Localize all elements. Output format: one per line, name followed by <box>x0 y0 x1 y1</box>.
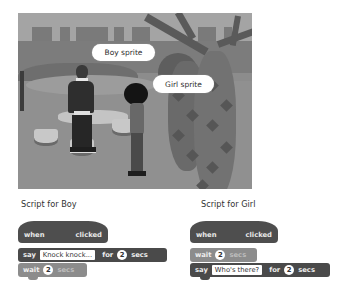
girl-sprite-callout: Girl sprite <box>153 75 214 93</box>
wait-label: wait <box>195 251 211 259</box>
wait-secs-input[interactable]: 2 <box>43 265 53 275</box>
girl-sprite[interactable] <box>124 83 150 179</box>
boy-wait-secs-block[interactable]: wait 2 secs <box>18 263 87 277</box>
for-label: for <box>102 251 113 259</box>
girl-wait-secs-block[interactable]: wait 2 secs <box>190 248 257 262</box>
say-label: say <box>23 251 36 259</box>
boy-sprite-callout: Boy sprite <box>92 44 155 61</box>
for-label: for <box>269 266 280 274</box>
boy-sprite[interactable] <box>66 65 96 153</box>
script-for-girl-label: Script for Girl <box>201 199 255 209</box>
secs-label: secs <box>131 251 148 259</box>
script-for-boy-label: Script for Boy <box>21 199 77 209</box>
secs-label: secs <box>229 251 246 259</box>
when-label: when <box>196 231 217 239</box>
clicked-label: clicked <box>245 231 272 239</box>
boy-say-for-secs-block[interactable]: say Knock knock... for 2 secs <box>18 248 167 262</box>
secs-label: secs <box>298 266 315 274</box>
when-label: when <box>24 231 45 239</box>
block-notch <box>200 277 210 280</box>
block-notch <box>28 277 38 280</box>
say-label: say <box>195 266 208 274</box>
secs-input[interactable]: 2 <box>117 250 127 260</box>
secs-label: secs <box>57 266 74 274</box>
say-message-input[interactable]: Knock knock... <box>40 250 95 260</box>
boy-when-flag-clicked-block[interactable]: when clicked <box>18 221 108 243</box>
clicked-label: clicked <box>75 231 102 239</box>
wait-label: wait <box>23 266 39 274</box>
wait-secs-input[interactable]: 2 <box>215 250 225 260</box>
say-message-input[interactable]: Who's there? <box>212 265 262 275</box>
stool <box>34 129 58 143</box>
secs-input[interactable]: 2 <box>284 265 294 275</box>
green-flag-icon <box>54 230 66 239</box>
small-tree <box>20 71 24 111</box>
stage-scene: Boy sprite Girl sprite <box>18 13 252 189</box>
girl-when-flag-clicked-block[interactable]: when clicked <box>190 221 278 243</box>
big-tree <box>168 51 248 189</box>
green-flag-icon <box>225 230 237 239</box>
girl-say-for-secs-block[interactable]: say Who's there? for 2 secs <box>190 263 330 277</box>
